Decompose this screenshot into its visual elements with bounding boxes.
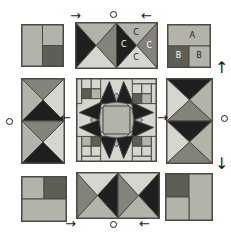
corner-block-bottom-right: [166, 174, 212, 220]
quilt-assembly-diagram: CCCCABB→←←→↑↓→←: [0, 0, 231, 244]
hourglass-block-right-pieces: [167, 79, 212, 163]
corner-block-top-left-pieces: [22, 25, 63, 66]
piece-letter-label: C: [133, 29, 139, 37]
corner-block-bottom-right-pieces: [166, 174, 212, 220]
quilt-piece-light: [132, 79, 156, 84]
piece-letter-label: C: [147, 42, 153, 50]
quilt-piece-medium: [91, 89, 100, 99]
star-block-center: [77, 79, 156, 161]
quilt-piece-light: [77, 79, 82, 104]
pin-circle-top-icon: [110, 11, 117, 18]
seam-arrow-bottom-right-icon: ←: [139, 217, 150, 230]
seam-arrow-center-right-icon: →: [157, 111, 168, 124]
piece-letter-label: A: [190, 32, 195, 40]
quilt-piece-medium: [142, 136, 151, 146]
quilt-piece-light: [132, 84, 141, 94]
quilt-piece-medium: [43, 25, 64, 46]
corner-block-bottom-left: [22, 177, 66, 221]
seam-arrow-top-left-icon: →: [70, 9, 81, 22]
quilt-piece-dark: [91, 136, 100, 146]
piece-letter-label: C: [121, 41, 127, 49]
quilt-piece-dark: [43, 46, 64, 67]
quilt-piece-light: [142, 146, 151, 156]
pin-circle-bottom-icon: [110, 221, 117, 228]
piece-letter-label: B: [176, 52, 182, 60]
quilt-piece-light: [82, 146, 91, 156]
corner-block-top-left: [22, 25, 63, 66]
seam-arrow-bottom-left-icon: →: [65, 217, 76, 230]
pin-circle-left-icon: [6, 118, 13, 125]
piece-letter-label: B: [196, 52, 202, 60]
seam-arrow-right-up-icon: ↑: [215, 60, 228, 76]
hourglass-block-right: [167, 79, 212, 163]
seam-arrow-top-right-icon: ←: [141, 9, 152, 22]
hourglass-block-top: CCCC: [76, 23, 157, 68]
quilt-piece-light: [91, 146, 100, 156]
corner-block-top-right: ABB: [168, 25, 210, 67]
quilt-piece-light: [132, 146, 141, 156]
quilt-piece-medium: [22, 199, 66, 221]
quilt-piece-light: [142, 84, 151, 94]
hourglass-block-left: [22, 79, 64, 163]
quilt-piece-medium: [82, 136, 91, 146]
star-block-center-pieces: [77, 79, 156, 161]
quilt-piece-light: [132, 156, 151, 161]
seam-arrow-right-down-icon: ↓: [215, 156, 228, 172]
quilt-piece-medium: [142, 94, 151, 104]
quilt-piece-light: [151, 84, 156, 104]
quilt-piece-dark: [82, 89, 91, 99]
quilt-piece-light: [77, 136, 82, 161]
quilt-piece-medium: [189, 174, 212, 220]
hourglass-block-top-pieces: [76, 23, 157, 68]
pin-circle-right-icon: [221, 115, 228, 122]
quilt-piece-medium: [103, 106, 130, 134]
quilt-piece-dark: [132, 136, 141, 146]
quilt-piece-light: [151, 136, 156, 161]
quilt-piece-light: [91, 79, 100, 89]
piece-letter-label: C: [133, 54, 139, 62]
quilt-piece-light: [82, 156, 101, 161]
quilt-piece-dark: [44, 177, 66, 199]
corner-block-bottom-left-pieces: [22, 177, 66, 221]
quilt-piece-medium: [22, 177, 44, 199]
hourglass-block-left-pieces: [22, 79, 64, 163]
quilt-piece-dark: [132, 94, 141, 104]
quilt-piece-light: [82, 79, 91, 89]
quilt-piece-medium: [22, 25, 43, 66]
hourglass-block-bottom-pieces: [77, 173, 159, 218]
quilt-piece-dark: [166, 174, 189, 197]
quilt-piece-medium: [166, 197, 189, 220]
seam-arrow-center-left-icon: ←: [60, 111, 71, 124]
hourglass-block-bottom: [77, 173, 159, 218]
